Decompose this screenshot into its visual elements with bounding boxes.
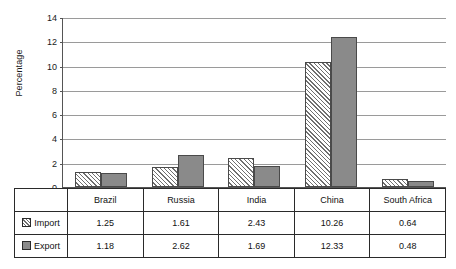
table-cell: 10.26 [294, 212, 370, 235]
hatched-swatch-icon [22, 218, 31, 227]
bar-import-india [228, 158, 254, 188]
table-cell: 1.18 [68, 235, 144, 258]
solid-gray-swatch-icon [22, 241, 31, 250]
table-corner-cell [15, 189, 68, 212]
bar-import-south-africa [382, 179, 408, 187]
bar-import-brazil [75, 172, 101, 187]
bar-group-china [293, 18, 370, 187]
y-axis-title: Percentage [14, 28, 24, 118]
y-tick-label: 8 [52, 86, 57, 96]
bar-import-russia [152, 167, 178, 187]
category-header-cell: Brazil [68, 189, 144, 212]
table-row: Import 1.25 1.61 2.43 10.26 0.64 [15, 212, 446, 235]
bar-group-russia [140, 18, 217, 187]
bar-export-brazil [101, 173, 127, 187]
bar-export-russia [178, 155, 204, 187]
bar-export-south-africa [408, 181, 434, 187]
bar-group-india [216, 18, 293, 187]
table-cell: 2.62 [143, 235, 219, 258]
table-cell: 12.33 [294, 235, 370, 258]
category-header-cell: Russia [143, 189, 219, 212]
plot-area: 14121086420 [62, 18, 446, 188]
table-row-categories: Brazil Russia India China South Africa [15, 189, 446, 212]
y-tick-label: 2 [52, 159, 57, 169]
table-cell: 0.64 [370, 212, 446, 235]
category-header-cell: China [294, 189, 370, 212]
table-cell: 0.48 [370, 235, 446, 258]
bar-chart-figure: Percentage 14121086420 Brazil Russia Ind… [0, 0, 456, 269]
bar-export-india [254, 166, 280, 187]
bar-export-china [331, 37, 357, 187]
bars-layer [63, 18, 446, 187]
y-tick-label: 10 [47, 62, 57, 72]
bar-group-brazil [63, 18, 140, 187]
legend-label-export: Export [34, 241, 60, 251]
data-table: Brazil Russia India China South Africa I… [14, 188, 446, 258]
category-header-cell: South Africa [370, 189, 446, 212]
y-tick-label: 6 [52, 110, 57, 120]
y-tick-label: 12 [47, 37, 57, 47]
bar-group-south-africa [369, 18, 446, 187]
table-cell: 1.25 [68, 212, 144, 235]
category-header-cell: India [219, 189, 295, 212]
y-tick-label: 4 [52, 134, 57, 144]
legend-item-import: Import [15, 212, 68, 235]
legend-label-import: Import [34, 218, 60, 228]
table-row: Export 1.18 2.62 1.69 12.33 0.48 [15, 235, 446, 258]
y-tick-label: 14 [47, 13, 57, 23]
bar-import-china [305, 62, 331, 187]
table-cell: 2.43 [219, 212, 295, 235]
table-cell: 1.61 [143, 212, 219, 235]
table-cell: 1.69 [219, 235, 295, 258]
legend-item-export: Export [15, 235, 68, 258]
